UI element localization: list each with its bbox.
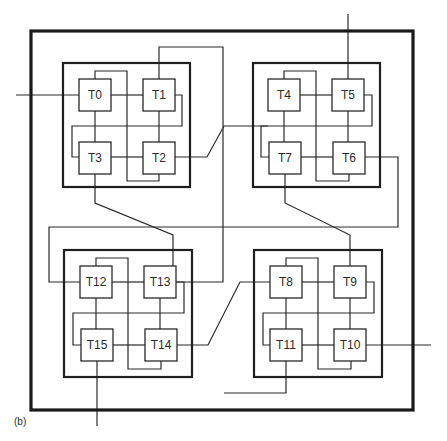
- tile-label: T14: [151, 338, 172, 352]
- tile-t14: T14: [145, 329, 177, 361]
- tile-label: T4: [277, 88, 291, 102]
- interconnect-wires: [16, 14, 431, 426]
- tile-label: T10: [340, 338, 361, 352]
- tile-network-diagram: T0T1T2T3T4T5T6T7T8T9T10T11T12T13T14T15 (…: [0, 0, 447, 441]
- tile-t5: T5: [332, 79, 364, 111]
- tile-label: T6: [342, 151, 356, 165]
- tile-t8: T8: [270, 266, 302, 298]
- tile-label: T13: [150, 275, 171, 289]
- tile-t13: T13: [144, 266, 176, 298]
- tile-label: T9: [343, 275, 357, 289]
- tile-t12: T12: [80, 266, 112, 298]
- tile-label: T11: [276, 338, 296, 352]
- tile-t9: T9: [334, 266, 366, 298]
- tile-label: T7: [278, 151, 292, 165]
- tile-label: T0: [88, 88, 102, 102]
- tile-t2: T2: [143, 142, 175, 174]
- tile-t1: T1: [143, 79, 175, 111]
- tile-t0: T0: [79, 79, 111, 111]
- tile-t6: T6: [333, 142, 365, 174]
- tile-t15: T15: [81, 329, 113, 361]
- tile-label: T2: [152, 151, 166, 165]
- tile-label: T1: [152, 88, 166, 102]
- tile-t11: T11: [270, 329, 302, 361]
- tile-label: T3: [88, 151, 102, 165]
- tile-t10: T10: [334, 329, 366, 361]
- tile-t3: T3: [79, 142, 111, 174]
- tile-label: T12: [86, 275, 107, 289]
- tile-label: T8: [279, 275, 293, 289]
- tile-t7: T7: [269, 142, 301, 174]
- tile-label: T5: [341, 88, 355, 102]
- tile-label: T15: [87, 338, 108, 352]
- figure-caption: (b): [14, 416, 26, 427]
- tile-t4: T4: [268, 79, 300, 111]
